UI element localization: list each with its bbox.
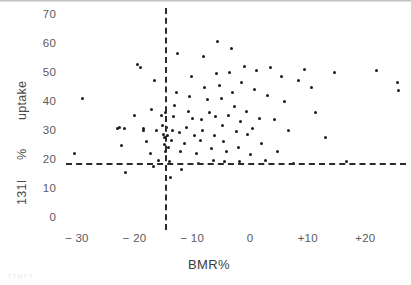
y-axis-title-segment: uptake: [16, 81, 29, 120]
data-point: [253, 88, 256, 91]
vertical-reference-line: [165, 8, 167, 230]
data-point: [155, 129, 158, 132]
data-point: [183, 142, 186, 145]
data-point: [235, 130, 238, 133]
data-point: [255, 69, 258, 72]
x-axis-title-label: BMR%: [188, 258, 230, 272]
data-point: [199, 139, 202, 142]
data-point: [251, 127, 254, 130]
scatter-plot-figure: 010203040506070 − 30− 20− 100+10+20 upta…: [0, 0, 411, 285]
data-point: [314, 111, 317, 114]
data-point: [397, 89, 400, 92]
data-point: [142, 129, 145, 132]
data-point: [120, 144, 123, 147]
data-point: [214, 115, 217, 118]
data-point: [149, 152, 152, 155]
data-point: [188, 95, 191, 98]
x-axis-tick--10: − 10: [169, 232, 215, 244]
data-point: [202, 55, 205, 58]
data-point: [145, 140, 148, 143]
data-point: [203, 86, 206, 89]
y-axis-title-segment: 131I: [16, 179, 29, 205]
data-point: [266, 94, 269, 97]
data-point: [81, 97, 84, 100]
data-point: [231, 91, 234, 94]
data-point: [245, 110, 248, 113]
y-axis-tick-60: 60: [22, 37, 56, 49]
data-point: [190, 75, 193, 78]
data-point: [210, 147, 213, 150]
data-point: [167, 146, 170, 149]
data-point: [280, 75, 283, 78]
data-point: [73, 152, 76, 155]
x-axis-tick-20: +20: [342, 232, 388, 244]
data-point: [152, 165, 155, 168]
data-point: [233, 105, 236, 108]
horizontal-reference-line: [66, 163, 406, 165]
data-point: [133, 114, 136, 117]
data-point: [260, 142, 263, 145]
data-point: [139, 66, 142, 69]
data-point: [310, 86, 313, 89]
y-axis-title-segment: %: [16, 149, 29, 160]
data-point: [258, 117, 261, 120]
x-axis-tick-0: 0: [227, 232, 273, 244]
data-point: [218, 84, 221, 87]
data-point: [124, 171, 127, 174]
data-point: [220, 97, 223, 100]
data-point: [333, 71, 336, 74]
data-point: [200, 118, 203, 121]
data-point: [171, 129, 174, 132]
data-point: [170, 139, 173, 142]
y-axis-tick-70: 70: [22, 8, 56, 20]
data-point: [237, 146, 240, 149]
data-point: [123, 127, 126, 130]
data-point: [201, 129, 204, 132]
data-point: [172, 115, 175, 118]
x-axis-tick--30: − 30: [54, 232, 100, 244]
data-point: [206, 98, 209, 101]
data-point: [191, 117, 194, 120]
data-point: [264, 159, 267, 162]
data-point: [222, 140, 225, 143]
data-point: [195, 152, 198, 155]
data-point: [283, 100, 286, 103]
data-point: [228, 71, 231, 74]
data-point: [193, 134, 196, 137]
data-point: [324, 136, 327, 139]
y-axis-tick-30: 30: [22, 124, 56, 136]
figure-caption: TTNYT: [7, 272, 34, 281]
data-point: [161, 124, 164, 127]
data-point: [240, 81, 243, 84]
y-axis-tick-0: 0: [22, 211, 56, 223]
data-point: [239, 120, 242, 123]
data-point: [160, 114, 163, 117]
data-point: [396, 81, 399, 84]
data-point: [225, 150, 228, 153]
data-point: [157, 159, 160, 162]
data-point: [375, 69, 378, 72]
data-point: [180, 168, 183, 171]
data-point: [221, 124, 224, 127]
data-point: [269, 66, 272, 69]
x-axis-tick--20: − 20: [112, 232, 158, 244]
data-point: [178, 131, 181, 134]
data-point: [216, 40, 219, 43]
data-point: [213, 134, 216, 137]
data-point: [187, 110, 190, 113]
data-point: [246, 133, 249, 136]
data-point: [176, 52, 179, 55]
data-point: [208, 111, 211, 114]
x-axis-tick-10: +10: [285, 232, 331, 244]
data-point: [227, 114, 230, 117]
data-point: [303, 68, 306, 71]
data-point: [173, 104, 176, 107]
data-point: [212, 159, 215, 162]
y-axis-tick-50: 50: [22, 66, 56, 78]
data-point: [150, 108, 153, 111]
data-point: [287, 129, 290, 132]
data-point: [179, 150, 182, 153]
data-point: [276, 150, 279, 153]
data-point: [243, 65, 246, 68]
data-point: [169, 176, 172, 179]
